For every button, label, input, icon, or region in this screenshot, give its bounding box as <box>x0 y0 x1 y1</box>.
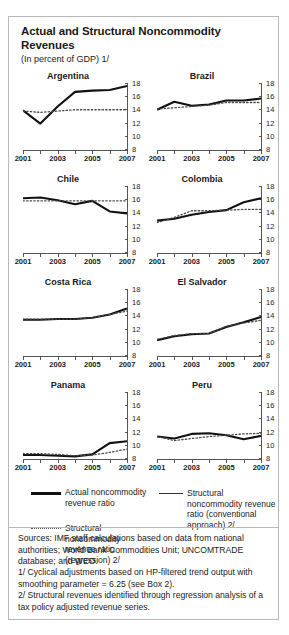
figure-subtitle: (In percent of GDP) 1/ <box>21 52 268 65</box>
x-tick-label: 2003 <box>48 464 68 472</box>
title-block: Actual and Structural Noncommodity Reven… <box>9 17 278 67</box>
series-line <box>157 433 261 439</box>
y-tick-label: 16 <box>266 299 274 307</box>
legend-item-conventional: Structural noncommodity revenue ratio (c… <box>159 488 278 530</box>
x-tick-label: 2007 <box>117 361 137 369</box>
panel-row: Chile810121416182001200320052007Colombia… <box>9 174 278 277</box>
y-tick-label: 16 <box>266 196 274 204</box>
series-line <box>23 308 127 319</box>
x-tick-label: 2007 <box>117 258 137 266</box>
y-tick-label: 18 <box>132 183 140 191</box>
x-tick-label: 2007 <box>117 464 137 472</box>
y-tick-label: 10 <box>266 133 274 141</box>
page-title: Actual and Structural Noncommodity Reven… <box>21 25 268 52</box>
y-tick-label: 8 <box>132 249 136 257</box>
legend-label-conventional: Structural noncommodity revenue ratio (c… <box>187 488 278 530</box>
y-tick-label: 16 <box>132 299 140 307</box>
x-tick-label: 2005 <box>216 258 236 266</box>
y-tick-label: 14 <box>132 106 140 114</box>
y-tick-label: 18 <box>266 80 274 88</box>
panel-grid: Argentina810121416182001200320052007Braz… <box>9 71 278 483</box>
y-tick-label: 8 <box>266 249 270 257</box>
y-tick-label: 12 <box>266 429 274 437</box>
y-tick-label: 18 <box>266 389 274 397</box>
x-tick-label: 2001 <box>13 464 33 472</box>
x-tick-label: 2007 <box>117 155 137 163</box>
y-tick-label: 12 <box>266 223 274 231</box>
y-tick-label: 8 <box>266 146 270 154</box>
series-line <box>157 317 261 340</box>
y-tick-label: 14 <box>266 106 274 114</box>
chart-panel-chile: Chile810121416182001200320052007 <box>9 174 143 277</box>
x-tick-label: 2007 <box>251 361 271 369</box>
panel-title: Argentina <box>9 71 127 81</box>
x-tick-label: 2001 <box>147 258 167 266</box>
y-tick-label: 16 <box>266 93 274 101</box>
figure-container: Actual and Structural Noncommodity Reven… <box>8 16 279 620</box>
x-tick-label: 2001 <box>13 361 33 369</box>
x-tick-label: 2005 <box>82 258 102 266</box>
x-tick-label: 2005 <box>82 464 102 472</box>
y-tick-label: 8 <box>266 455 270 463</box>
x-tick-label: 2003 <box>182 464 202 472</box>
series-plot <box>23 290 129 358</box>
series-line <box>23 311 127 319</box>
y-tick-label: 12 <box>132 429 140 437</box>
x-tick-label: 2003 <box>48 155 68 163</box>
y-tick-label: 14 <box>266 209 274 217</box>
y-tick-label: 12 <box>132 223 140 231</box>
y-tick-label: 18 <box>266 183 274 191</box>
series-plot <box>23 393 129 461</box>
series-plot <box>23 84 129 152</box>
panel-title: Panama <box>9 380 127 390</box>
x-tick-label: 2007 <box>251 464 271 472</box>
y-tick-label: 14 <box>266 312 274 320</box>
panel-title: Chile <box>9 174 127 184</box>
y-tick-label: 10 <box>266 236 274 244</box>
chart-panel-colombia: Colombia810121416182001200320052007 <box>143 174 277 277</box>
chart-panel-peru: Peru810121416182001200320052007 <box>143 380 277 483</box>
y-tick-label: 14 <box>266 415 274 423</box>
panel-title: Costa Rica <box>9 277 127 287</box>
panel-title: Colombia <box>143 174 261 184</box>
y-tick-label: 10 <box>266 442 274 450</box>
x-tick-label: 2001 <box>147 464 167 472</box>
panel-row: Panama810121416182001200320052007Peru810… <box>9 380 278 483</box>
y-tick-label: 18 <box>266 286 274 294</box>
y-tick-label: 14 <box>132 312 140 320</box>
chart-panel-argentina: Argentina810121416182001200320052007 <box>9 71 143 174</box>
series-plot <box>157 393 263 461</box>
series-line <box>23 198 127 214</box>
x-tick-label: 2001 <box>147 155 167 163</box>
x-tick-label: 2003 <box>48 361 68 369</box>
panel-row: Argentina810121416182001200320052007Braz… <box>9 71 278 174</box>
x-tick-label: 2003 <box>182 258 202 266</box>
x-tick-label: 2005 <box>216 155 236 163</box>
y-tick-label: 18 <box>132 80 140 88</box>
x-tick-label: 2007 <box>251 155 271 163</box>
y-tick-label: 12 <box>132 120 140 128</box>
panel-title: El Salvador <box>143 277 261 287</box>
note-footnote-1: 1/ Cyclical adjustments based on HP-filt… <box>18 567 270 590</box>
legend-line-solid-thin-icon <box>159 493 183 494</box>
y-tick-label: 10 <box>266 339 274 347</box>
y-tick-label: 18 <box>132 286 140 294</box>
y-tick-label: 10 <box>132 236 140 244</box>
y-tick-label: 10 <box>132 442 140 450</box>
x-tick-label: 2003 <box>48 258 68 266</box>
chart-panel-costa-rica: Costa Rica810121416182001200320052007 <box>9 277 143 380</box>
legend-item-actual: Actual noncommodity revenue ratio <box>31 487 149 508</box>
x-tick-label: 2005 <box>216 464 236 472</box>
note-sources: Sources: IMF staff calculations based on… <box>18 533 270 567</box>
panel-title: Brazil <box>143 71 261 81</box>
series-plot <box>157 84 263 152</box>
x-tick-label: 2005 <box>216 361 236 369</box>
y-tick-label: 12 <box>132 326 140 334</box>
x-tick-label: 2007 <box>251 258 271 266</box>
chart-panel-panama: Panama810121416182001200320052007 <box>9 380 143 483</box>
figure-notes: Sources: IMF staff calculations based on… <box>9 527 278 619</box>
y-tick-label: 18 <box>132 389 140 397</box>
y-tick-label: 8 <box>132 352 136 360</box>
y-tick-label: 10 <box>132 339 140 347</box>
x-tick-label: 2005 <box>82 361 102 369</box>
